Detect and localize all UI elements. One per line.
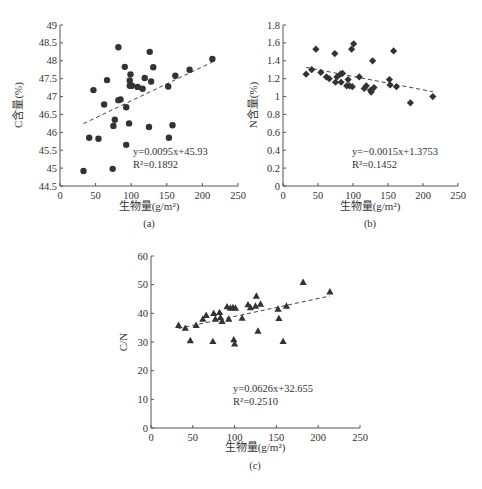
figure-canvas: 44.54545.54646.54747.54848.549 050100150… [0,0,482,489]
y-tick-label: 1.8 [267,20,280,31]
triangle-marker-icon [209,338,216,344]
diamond-marker-icon [338,79,345,86]
circle-marker-icon [101,101,107,107]
y-tick-label: 49 [47,20,58,31]
triangle-marker-icon [275,315,282,321]
diamond-marker-icon [387,81,394,88]
y-tick-label: 50 [138,279,149,290]
diamond-marker-icon [308,66,315,73]
circle-marker-icon [129,83,135,89]
triangle-marker-icon [216,309,223,315]
circle-marker-icon [147,49,153,55]
panel-label: (a) [143,218,155,230]
y-tick-label: 45 [47,163,58,174]
y-axis: 0102030405060 [138,251,155,434]
x-tick-label: 0 [280,190,285,201]
r-squared-label: R²=0.1452 [352,159,397,170]
y-tick-label: 0 [143,423,148,434]
diamond-marker-icon [369,57,376,64]
x-tick-label: 50 [188,432,199,443]
circle-marker-icon [150,64,156,70]
circle-marker-icon [148,78,154,84]
circle-marker-icon [109,166,115,172]
x-tick-label: 200 [415,190,431,201]
circle-marker-icon [123,104,129,110]
figure: 44.54545.54646.54747.54848.549 050100150… [0,0,482,489]
circle-marker-icon [186,67,192,73]
x-axis: 050100150200250 [57,183,246,201]
y-tick-label: 20 [138,365,149,376]
x-tick-label: 250 [450,190,466,201]
circle-marker-icon [142,75,148,81]
circle-marker-icon [146,124,152,130]
triangle-marker-icon [225,315,232,321]
x-tick-label: 200 [310,432,326,443]
circle-marker-icon [95,136,101,142]
triangle-marker-icon [257,300,264,306]
x-tick-label: 0 [148,432,153,443]
x-tick-label: 250 [352,432,368,443]
diamond-marker-icon [407,99,414,106]
diamond-marker-icon [303,71,310,78]
diamond-marker-icon [390,47,397,54]
triangle-marker-icon [253,292,260,298]
circle-marker-icon [123,142,129,148]
y-tick-label: 48.5 [39,37,57,48]
y-axis: 00.20.40.60.811.21.41.61.8 [267,20,286,192]
y-tick-label: 44.5 [39,181,57,192]
circle-marker-icon [86,135,92,141]
diamond-marker-icon [356,73,363,80]
triangle-marker-icon [182,324,189,330]
r-squared-label: R²=0.2510 [233,396,278,407]
y-tick-label: 0 [275,181,280,192]
x-axis-label: 生物量(g/m²) [225,440,286,454]
equation-label: y=−0.0015x+1.3753 [352,146,438,157]
circle-marker-icon [122,64,128,70]
circle-marker-icon [115,44,121,50]
y-tick-label: 30 [138,337,149,348]
circle-marker-icon [127,71,133,77]
panel-label: (b) [364,218,377,230]
circle-marker-icon [165,83,171,89]
diamond-marker-icon [393,83,400,90]
triangle-marker-icon [326,288,333,294]
y-tick-label: 46 [47,127,58,138]
circle-marker-icon [139,85,145,91]
circle-marker-icon [169,122,175,128]
triangle-marker-icon [254,327,261,333]
circle-marker-icon [104,77,110,83]
circle-marker-icon [112,117,118,123]
triangle-marker-icon [274,305,281,311]
y-tick-label: 10 [138,394,149,405]
diamond-marker-icon [317,69,324,76]
trendline [179,296,330,328]
x-tick-label: 200 [195,190,211,201]
y-tick-label: 1.2 [267,73,280,84]
diamond-marker-icon [331,50,338,57]
y-axis-label: N含量(%) [246,81,260,128]
circle-marker-icon [126,120,132,126]
y-tick-label: 1 [275,91,280,102]
x-tick-label: 250 [230,190,246,201]
diamond-marker-icon [429,93,436,100]
equation-label: y=0.0626x+32.655 [233,383,313,394]
trendline [83,62,212,124]
diamond-marker-icon [345,76,352,83]
panel-label: (c) [249,460,261,472]
y-tick-label: 47.5 [39,73,57,84]
triangle-marker-icon [230,336,237,342]
y-tick-label: 48 [47,55,58,66]
y-tick-label: 0.2 [267,163,280,174]
chart-b: 00.20.40.60.811.21.41.61.8 0501001502002… [246,20,466,231]
chart-c: 0102030405060 050100150200250 y=0.0626x+… [117,251,368,473]
x-axis: 050100150200250 [280,183,466,201]
triangle-marker-icon [239,314,246,320]
y-axis-label: C含量(%) [11,82,25,128]
y-tick-label: 0.8 [267,109,280,120]
y-tick-label: 1.6 [267,37,280,48]
y-axis: 44.54545.54646.54747.54848.549 [39,20,63,192]
circle-marker-icon [166,135,172,141]
x-tick-label: 50 [90,190,101,201]
y-tick-label: 47 [47,91,58,102]
x-tick-label: 0 [57,190,62,201]
